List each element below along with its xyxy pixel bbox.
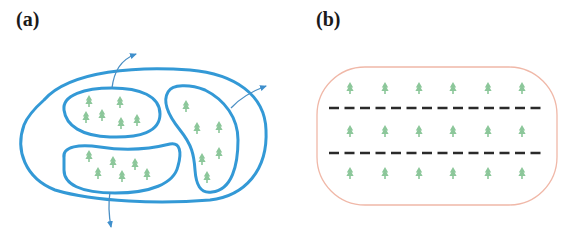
tree-icon: [518, 167, 525, 179]
tree-icon: [346, 167, 353, 179]
tree-icon: [415, 125, 422, 137]
tree-icon: [203, 171, 210, 183]
tree-icon: [449, 167, 456, 179]
tree-icon: [484, 167, 491, 179]
tree-row-3: [346, 167, 525, 179]
diagram-canvas: [0, 0, 571, 229]
tree-icon: [381, 125, 388, 137]
tree-icon: [109, 156, 116, 168]
tree-icon: [449, 125, 456, 137]
tree-row-1: [346, 82, 525, 94]
tree-icon: [118, 170, 125, 182]
tree-icon: [193, 122, 200, 134]
tree-icon: [143, 168, 150, 180]
tree-icon: [133, 114, 140, 126]
tree-icon: [94, 167, 101, 179]
tree-icon: [85, 95, 92, 107]
panel-b: [317, 67, 557, 205]
tree-icon: [484, 125, 491, 137]
tree-icon: [131, 158, 138, 170]
tree-row-2: [346, 125, 525, 137]
tree-icon: [518, 125, 525, 137]
tree-icon: [381, 82, 388, 94]
tree-icon: [117, 117, 124, 129]
tree-icon: [415, 167, 422, 179]
tree-icon: [182, 100, 189, 112]
trees-bottom-left: [85, 150, 150, 182]
tree-icon: [346, 82, 353, 94]
tree-icon: [215, 121, 222, 133]
tree-icon: [82, 111, 89, 123]
tree-icon: [518, 82, 525, 94]
trees-top-left: [82, 95, 140, 129]
tree-icon: [415, 82, 422, 94]
tree-icon: [346, 125, 353, 137]
tree-icon: [484, 82, 491, 94]
patch-bottom-left: [64, 144, 180, 193]
panel-a: [21, 54, 266, 227]
patch-top-left: [64, 88, 160, 137]
tree-icon: [116, 96, 123, 108]
arrow-bottom: [109, 192, 111, 227]
patch-right: [166, 86, 238, 193]
tree-icon: [449, 82, 456, 94]
tree-icon: [98, 109, 105, 121]
tree-icon: [381, 167, 388, 179]
tree-icon: [198, 153, 205, 165]
tree-icon: [85, 150, 92, 162]
tree-icon: [215, 147, 222, 159]
